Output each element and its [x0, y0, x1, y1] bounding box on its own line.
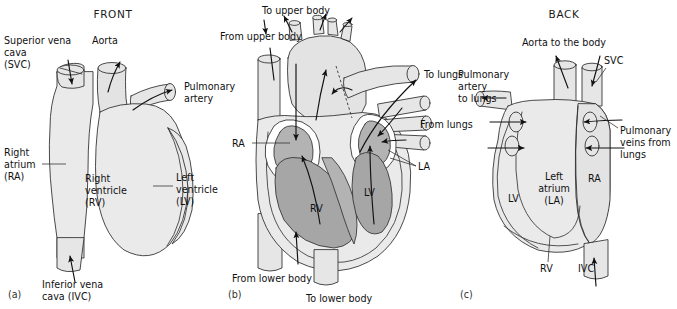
panel-a-right-atrium-label-line1: Right [4, 147, 30, 158]
panel-a-svc-label-line2: cava [4, 47, 27, 58]
panel-c-svc-label: SVC [604, 55, 624, 66]
panel-a-right-ventricle-label-line2: ventricle [85, 185, 127, 196]
panel-c-left-atrium-label-line1: Left [545, 171, 563, 182]
panel-c-ra-label: RA [588, 173, 601, 184]
panel-b-ra-label: RA [232, 138, 245, 149]
panel-c-left-atrium-label-line3: (LA) [544, 195, 564, 206]
panel-c-aorta-to-body-label: Aorta to the body [522, 37, 606, 48]
panel-b-from-upper-body-label: From upper body [220, 31, 302, 42]
panel-a-title: FRONT [94, 8, 133, 20]
panel-c-pulmonary-veins-label-line2: veins from [620, 137, 671, 148]
panel-a-right-ventricle-label-line3: (RV) [85, 197, 105, 208]
panel-b-la-label: LA [418, 161, 431, 172]
panel-b-to-lower-body-label: To lower body [305, 293, 372, 304]
panel-c-pulmonary-artery-label-line3: to lungs [458, 93, 497, 104]
panel-a-aorta-label: Aorta [92, 35, 118, 46]
panel-a-right-atrium-label-line3: (RA) [4, 171, 24, 182]
panel-a-svc-label-line1: Superior vena [4, 35, 71, 46]
panel-b-lv-label: LV [364, 187, 375, 198]
panel-a-right-atrium-label-line2: atrium [4, 159, 36, 170]
panel-a-caption: (a) [8, 289, 21, 300]
panel-a-left-ventricle-label-line2: ventricle [176, 184, 218, 195]
panel-b-rv-label: RV [310, 203, 323, 214]
panel-c-left-atrium-label-line2: atrium [538, 183, 570, 194]
panel-c-back-view: BACK [450, 0, 677, 309]
panel-c-pulmonary-artery-label-line2: artery [458, 81, 487, 92]
panel-a-front-view: FRONT Superio [0, 0, 228, 309]
panel-c-pulmonary-veins-label-line3: lungs [620, 149, 646, 160]
panel-c-ivc-label: IVC [578, 263, 594, 274]
panel-c-lv-label: LV [508, 193, 519, 204]
panel-b-from-lower-body-label: From lower body [232, 273, 312, 284]
panel-a-right-ventricle-label-line1: Right [85, 173, 111, 184]
panel-b-caption: (b) [228, 289, 242, 300]
panel-c-rv-label: RV [540, 263, 553, 274]
panel-b-cross-section: To upper body From upper body To lungs F… [228, 0, 450, 309]
panel-a-pulmonary-artery-label-line2: artery [184, 93, 213, 104]
heart-anatomy-figure: FRONT Superio [0, 0, 677, 309]
panel-c-title: BACK [549, 8, 580, 20]
panel-a-svc-label-line3: (SVC) [4, 59, 31, 70]
panel-a-left-ventricle-label-line3: (LV) [176, 196, 194, 207]
panel-a-ivc-label-line1: Inferior vena [42, 279, 103, 290]
panel-b-to-upper-body-label: To upper body [261, 5, 330, 16]
panel-a-ivc-label-line2: cava (IVC) [42, 291, 91, 302]
panel-a-left-ventricle-label-line1: Left [176, 172, 194, 183]
panel-c-pulmonary-veins-label-line1: Pulmonary [620, 125, 671, 136]
panel-c-pulmonary-artery-label-line1: Pulmonary [458, 69, 509, 80]
panel-c-caption: (c) [460, 289, 473, 300]
